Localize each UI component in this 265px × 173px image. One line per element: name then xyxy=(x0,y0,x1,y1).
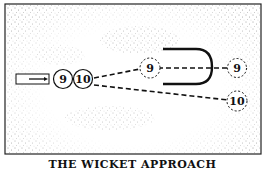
player-9-start: 9 xyxy=(54,70,73,89)
player-10-right: 10 xyxy=(227,91,247,111)
svg-text:9: 9 xyxy=(233,62,241,75)
svg-text:10: 10 xyxy=(75,73,91,86)
player-9-right: 9 xyxy=(228,59,247,78)
wicket-approach-diagram: 9 10 9 9 10 xyxy=(0,0,265,173)
svg-text:10: 10 xyxy=(229,95,245,108)
svg-text:9: 9 xyxy=(59,73,67,86)
diagram-caption: THE WICKET APPROACH xyxy=(0,158,265,171)
svg-text:9: 9 xyxy=(146,62,154,75)
player-9-mid: 9 xyxy=(140,58,160,78)
player-10-start: 10 xyxy=(74,70,93,89)
wicket-icon xyxy=(16,74,49,84)
